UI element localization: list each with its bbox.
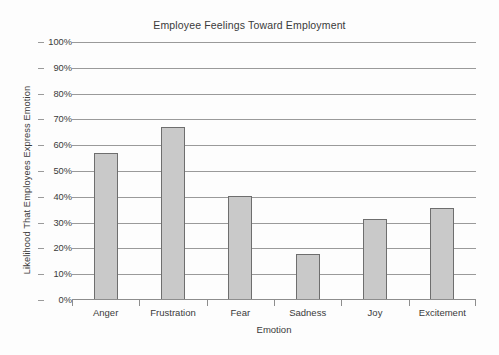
x-axis-tick-mark: [207, 300, 208, 306]
gridline: [72, 119, 476, 120]
x-axis-tick-mark: [274, 300, 275, 306]
x-axis-tick-mark: [409, 300, 410, 306]
x-axis-tick-label: Excitement: [397, 307, 487, 318]
y-axis-tick-mark: [38, 248, 44, 249]
x-axis-tick-marks: [72, 300, 476, 307]
y-axis-tick-mark: [38, 223, 44, 224]
gridline: [72, 223, 476, 224]
bar: [363, 219, 387, 300]
gridline: [72, 197, 476, 198]
x-axis-tick-mark: [72, 300, 73, 306]
y-axis-tick-mark: [38, 94, 44, 95]
gridline: [72, 94, 476, 95]
y-axis-tick-mark: [38, 300, 44, 301]
y-axis-tick-mark: [38, 145, 44, 146]
bar-chart: Employee Feelings Toward Employment Like…: [0, 0, 499, 355]
bar: [430, 208, 454, 300]
gridline: [72, 145, 476, 146]
bar: [94, 153, 118, 300]
y-axis-tick-mark: [38, 197, 44, 198]
y-axis-tick-labels: 0%10%20%30%40%50%60%70%80%90%100%: [28, 42, 72, 300]
gridline: [72, 248, 476, 249]
x-axis-tick-mark: [341, 300, 342, 306]
x-axis-title: Emotion: [72, 324, 476, 335]
bar: [228, 196, 252, 300]
x-axis-tick-labels: AngerFrustrationFearSadnessJoyExcitement: [72, 307, 476, 323]
y-axis-tick-mark: [38, 274, 44, 275]
gridline: [72, 68, 476, 69]
y-axis-tick-mark: [38, 68, 44, 69]
y-axis-tick-mark: [38, 42, 44, 43]
y-axis-tick-marks: [38, 42, 44, 300]
gridline: [72, 274, 476, 275]
gridline: [72, 42, 476, 43]
gridline: [72, 171, 476, 172]
y-axis-tick-mark: [38, 119, 44, 120]
bar: [296, 254, 320, 300]
x-axis-tick-mark: [475, 300, 476, 306]
bar: [161, 127, 185, 300]
y-axis-tick-mark: [38, 171, 44, 172]
x-axis-tick-mark: [139, 300, 140, 306]
chart-title: Employee Feelings Toward Employment: [0, 19, 499, 31]
plot-area: [72, 42, 476, 300]
